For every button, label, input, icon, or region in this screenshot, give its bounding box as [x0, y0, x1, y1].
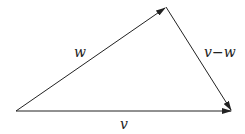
label-v: v: [120, 117, 128, 131]
vector-diagram: w v−w v: [0, 0, 245, 134]
label-w: w: [74, 45, 86, 59]
vector-triangle: [0, 0, 245, 134]
label-v-minus-w: v−w: [204, 45, 236, 59]
vector-w: [16, 8, 165, 111]
